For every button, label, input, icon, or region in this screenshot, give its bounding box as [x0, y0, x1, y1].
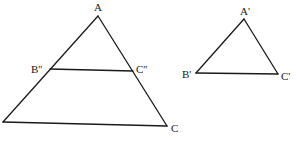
large-triangle: A B'' C'' C: [3, 1, 178, 134]
segment-b2-c2: [50, 69, 133, 71]
label-b-prime: B': [182, 68, 191, 80]
edge-a1c1: [244, 19, 278, 74]
label-b-double-prime: B'': [31, 63, 42, 75]
edge-bc: [3, 122, 167, 126]
label-c: C: [171, 122, 178, 134]
label-a-prime: A': [240, 5, 250, 17]
label-c-prime: C': [281, 70, 290, 82]
similar-triangles-diagram: A B'' C'' C A' B' C': [0, 0, 297, 141]
label-c-double-prime: C'': [136, 63, 147, 75]
edge-a1b1: [196, 19, 244, 73]
small-triangle: A' B' C': [182, 5, 290, 82]
edge-b1c1: [196, 73, 278, 74]
label-a: A: [94, 1, 102, 13]
